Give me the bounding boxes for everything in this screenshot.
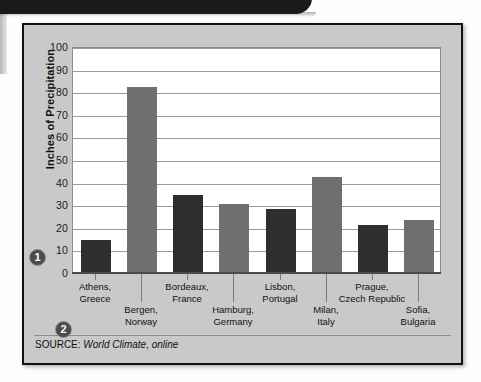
bar [312, 177, 342, 272]
x-axis-line [72, 272, 441, 274]
x-category-label: Lisbon,Portugal [237, 281, 323, 304]
chart-panel: 1 2 Inches of Precipitation 100908070605… [22, 23, 463, 365]
bar [404, 220, 434, 272]
plot-area [72, 47, 441, 273]
y-tick-label: 70 [24, 109, 68, 121]
x-axis-tick [372, 274, 373, 280]
bar [219, 204, 249, 272]
source-divider [34, 335, 451, 336]
bar [81, 240, 111, 272]
y-tick-label: 40 [24, 177, 68, 189]
y-tick-label: 60 [24, 131, 68, 143]
x-axis-tick [187, 274, 188, 280]
top-black-banner [0, 0, 312, 14]
x-category-label: Sofia,Bulgaria [375, 304, 461, 327]
x-axis-tick [418, 274, 419, 302]
y-tick-label: 80 [24, 86, 68, 98]
bar [266, 209, 296, 272]
y-tick-label: 90 [24, 64, 68, 76]
y-tick-label: 20 [24, 222, 68, 234]
callout-marker-2[interactable]: 2 [55, 321, 72, 338]
bar [173, 195, 203, 272]
y-tick-label: 30 [24, 199, 68, 211]
x-axis-tick [95, 274, 96, 280]
source-name: World Climate, online [83, 339, 178, 350]
x-category-label: Milan,Italy [283, 304, 369, 327]
x-category-label: Bordeaux,France [144, 281, 230, 304]
bar [358, 225, 388, 272]
x-category-label: Bergen,Norway [98, 304, 184, 327]
y-tick-label: 0 [24, 267, 68, 279]
x-category-label: Hamburg,Germany [190, 304, 276, 327]
callout-marker-1[interactable]: 1 [29, 249, 46, 266]
gridline [73, 71, 440, 72]
page-edge-sliver [0, 14, 7, 74]
x-axis-tick [141, 274, 142, 302]
gridline [73, 48, 440, 49]
y-axis-tick-labels: 1009080706050403020100 [24, 47, 68, 273]
x-category-label: Prague,Czech Republic [329, 281, 415, 304]
x-axis-tick [233, 274, 234, 302]
y-tick-label: 50 [24, 154, 68, 166]
source-label: SOURCE: [35, 339, 81, 350]
y-tick-label: 100 [24, 41, 68, 53]
source-line: SOURCE: World Climate, online [35, 339, 178, 350]
bar [127, 87, 157, 272]
x-axis-tick [280, 274, 281, 280]
x-axis-tick [326, 274, 327, 302]
x-category-label: Athens,Greece [52, 281, 138, 304]
